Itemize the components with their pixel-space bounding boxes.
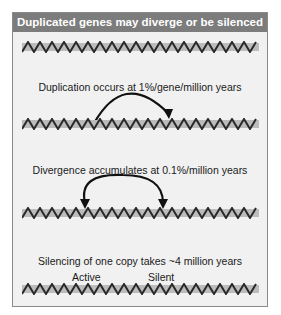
active-label: Active [72,271,101,283]
divergence-arrow-icon [13,13,269,213]
figure-frame: Duplicated genes may diverge or be silen… [12,12,268,307]
silencing-caption: Silencing of one copy takes ~4 million y… [13,255,267,267]
dna-helix-silenced [22,283,259,295]
silent-label: Silent [148,271,174,283]
dna-helix-diverged [22,207,259,219]
